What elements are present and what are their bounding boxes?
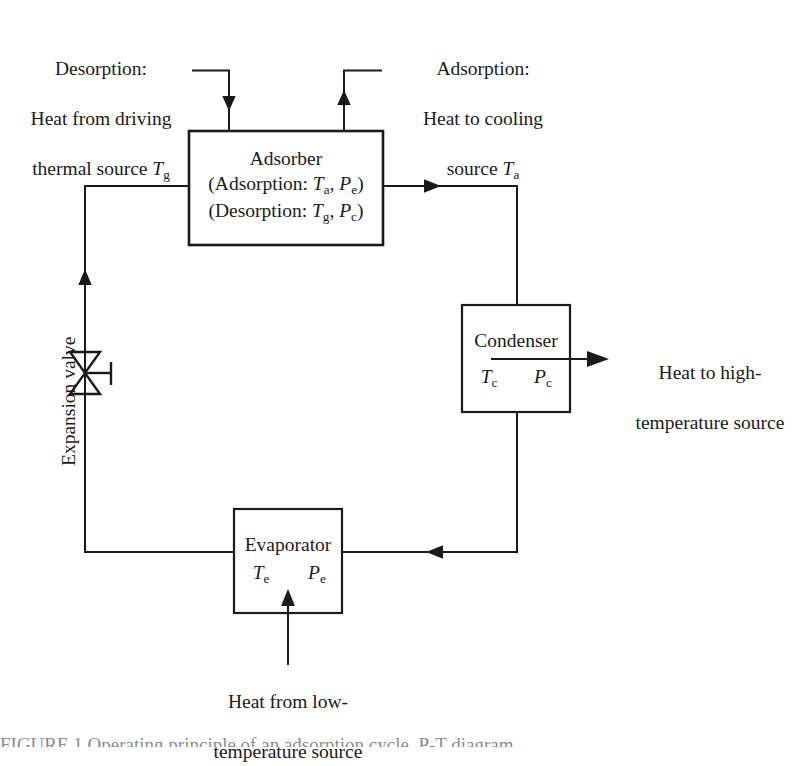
desorption-heat-label-line1: Desorption:	[8, 57, 194, 82]
adsorber-adsorption-suffix: )	[357, 173, 364, 194]
condenser-pressure: Pc	[516, 364, 570, 391]
adsorber-title: Adsorber	[189, 146, 383, 171]
desorption-arrowhead	[222, 96, 235, 111]
adsorption-heat-arrow	[344, 71, 382, 132]
adsorber-adsorption-sep: ,	[330, 173, 340, 194]
adsorber-ta-symbol: T	[313, 173, 324, 194]
temperature-symbol-tg: T	[152, 158, 163, 179]
evaporator-temperature: Te	[234, 560, 288, 587]
adsorber-adsorption-state: (Adsorption: Ta, Pe)	[189, 171, 383, 198]
adsorption-heat-label: Adsorption: Heat to cooling source Ta	[392, 32, 574, 208]
evaporator-pressure: Pe	[290, 560, 344, 587]
evaporator-heat-in-label: Heat from low- temperature source	[178, 665, 398, 766]
temperature-symbol-ta: T	[503, 158, 514, 179]
condenser-pc-subscript: c	[546, 375, 552, 390]
condenser-tc-symbol: T	[481, 366, 492, 387]
evaporator-te-symbol: T	[253, 562, 264, 583]
temperature-subscript-g: g	[163, 166, 170, 181]
adsorber-adsorption-prefix: (Adsorption:	[208, 173, 313, 194]
condenser-tc-subscript: c	[491, 375, 497, 390]
expansion-valve-label: Expansion valve	[58, 337, 80, 466]
pipe-condenser-to-evaporator	[342, 412, 517, 552]
desorption-heat-label-line3-text: thermal source	[32, 158, 152, 179]
adsorption-heat-label-line1: Adsorption:	[392, 57, 574, 82]
condenser-heat-out-label: Heat to high- temperature source	[612, 336, 808, 461]
pipe-evaporator-to-adsorber	[85, 186, 234, 552]
evaporator-pe-subscript: e	[320, 571, 326, 586]
figure-caption-cropped: FIGURE 1 Operating principle of an adsor…	[0, 735, 812, 747]
evaporator-heat-in-line1: Heat from low-	[178, 690, 398, 715]
desorption-heat-arrow	[192, 71, 229, 132]
adsorption-heat-label-line3: source Ta	[392, 157, 574, 184]
desorption-heat-label-line2: Heat from driving	[8, 107, 194, 132]
adsorber-pc-symbol: P	[339, 200, 351, 221]
condenser-title: Condenser	[454, 328, 578, 353]
condenser-heat-out-arrowhead	[587, 351, 609, 367]
condenser-label: Condenser	[454, 328, 578, 353]
desorption-heat-label: Desorption: Heat from driving thermal so…	[8, 32, 194, 208]
adsorber-label: Adsorber (Adsorption: Ta, Pe) (Desorptio…	[189, 146, 383, 225]
evaporator-te-subscript: e	[263, 571, 269, 586]
adsorber-desorption-suffix: )	[357, 200, 364, 221]
evaporator-label: Evaporator	[226, 532, 350, 557]
adsorber-desorption-sep: ,	[329, 200, 339, 221]
condenser-pc-symbol: P	[534, 366, 546, 387]
adsorption-arrowhead	[337, 90, 350, 105]
evaporator-title: Evaporator	[226, 532, 350, 557]
adsorber-desorption-state: (Desorption: Tg, Pc)	[189, 198, 383, 225]
pipe-condenser-to-evaporator-arrowhead	[426, 545, 443, 558]
adsorber-pe-symbol: P	[339, 173, 351, 194]
pipe-evaporator-to-adsorber-arrowhead	[78, 269, 91, 285]
adsorption-heat-label-line3-text: source	[447, 158, 503, 179]
adsorber-tg-symbol: T	[312, 200, 323, 221]
condenser-heat-out-line2: temperature source	[612, 411, 808, 436]
adsorber-desorption-prefix: (Desorption:	[209, 200, 312, 221]
temperature-subscript-a: a	[513, 166, 519, 181]
evaporator-pe-symbol: P	[308, 562, 320, 583]
desorption-heat-label-line3: thermal source Tg	[8, 157, 194, 184]
evaporator-heat-in-arrowhead	[281, 589, 295, 606]
condenser-heat-out-line1: Heat to high-	[612, 361, 808, 386]
condenser-temperature: Tc	[462, 364, 516, 391]
adsorption-heat-label-line2: Heat to cooling	[392, 107, 574, 132]
